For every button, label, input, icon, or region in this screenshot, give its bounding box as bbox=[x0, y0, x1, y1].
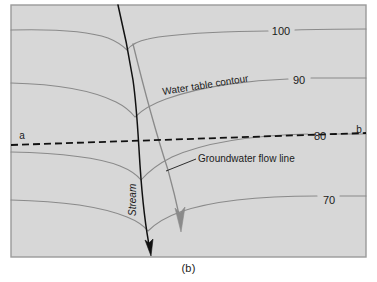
map-panel-background bbox=[11, 5, 366, 257]
section-endpoint-label-a: a bbox=[19, 130, 25, 141]
contour-label-70: 70 bbox=[323, 194, 335, 206]
groundwater-flow-line-label: Groundwater flow line bbox=[198, 153, 295, 164]
contour-label-100: 100 bbox=[272, 25, 290, 37]
contour-label-90: 90 bbox=[293, 74, 305, 86]
figure-caption: (b) bbox=[0, 262, 377, 274]
figure-container: 100 90 80 70 a b Water table contour Gro… bbox=[0, 0, 377, 282]
section-endpoint-label-b: b bbox=[356, 124, 362, 135]
contour-label-80: 80 bbox=[314, 130, 326, 142]
stream-label: Stream bbox=[127, 184, 138, 216]
water-table-contour-map: 100 90 80 70 a b Water table contour Gro… bbox=[0, 0, 377, 282]
